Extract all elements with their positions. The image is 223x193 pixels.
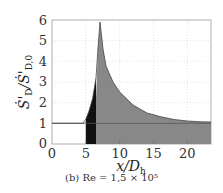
y-tick: 2 xyxy=(39,95,47,110)
x-tick: 5 xyxy=(82,146,90,161)
x-tick: 0 xyxy=(48,146,56,161)
x-tick: 15 xyxy=(145,146,162,161)
y-axis-label: Ṡ'D/Ṡ'D,0 xyxy=(15,55,34,110)
figure-caption: (b) Re = 1,5 × 10⁵ xyxy=(0,172,223,183)
y-tick: 1 xyxy=(39,116,47,131)
x-tick: 20 xyxy=(179,146,196,161)
y-tick: 3 xyxy=(39,74,47,89)
y-tick: 6 xyxy=(39,13,47,28)
y-tick: 0 xyxy=(39,136,47,151)
y-tick: 5 xyxy=(39,33,47,48)
chart: 0 5 10 15 20 0 1 2 3 4 5 6 x/Dh Ṡ'D/Ṡ'D,… xyxy=(0,0,223,193)
y-tick: 4 xyxy=(39,54,47,69)
